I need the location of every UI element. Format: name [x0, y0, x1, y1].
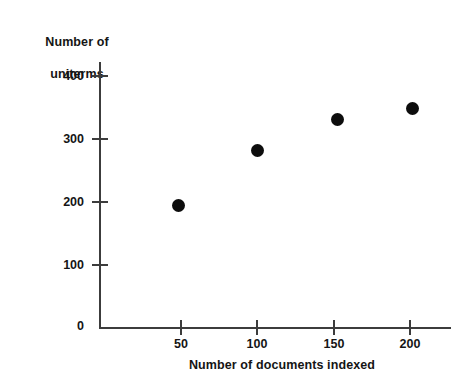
x-tick-150 — [333, 320, 335, 335]
y-axis-line — [99, 62, 101, 329]
x-tick-label-150: 150 — [310, 337, 358, 351]
x-tick-100 — [256, 320, 258, 335]
scatter-chart: Number of uniterms 400 300 200 100 0 50 … — [0, 0, 464, 381]
y-axis-title: Number of uniterms — [12, 18, 142, 98]
y-tick-label-300: 300 — [40, 132, 84, 146]
y-tick-200 — [92, 201, 108, 203]
x-axis-title: Number of documents indexed — [112, 358, 452, 372]
x-tick-label-50: 50 — [157, 337, 205, 351]
y-tick-label-0: 0 — [40, 319, 84, 333]
y-tick-100 — [92, 264, 108, 266]
y-tick-label-200: 200 — [40, 195, 84, 209]
y-tick-400 — [92, 75, 108, 77]
y-axis-title-line1: Number of — [12, 34, 142, 50]
y-tick-label-100: 100 — [40, 258, 84, 272]
x-tick-label-200: 200 — [386, 337, 434, 351]
x-tick-200 — [409, 320, 411, 335]
data-point-2 — [251, 144, 264, 157]
x-axis-line — [99, 327, 451, 329]
data-point-1 — [172, 199, 185, 212]
x-tick-50 — [180, 320, 182, 335]
x-tick-label-100: 100 — [233, 337, 281, 351]
data-point-4 — [406, 102, 419, 115]
y-tick-label-400: 400 — [40, 69, 84, 83]
y-tick-300 — [92, 138, 108, 140]
data-point-3 — [331, 113, 344, 126]
